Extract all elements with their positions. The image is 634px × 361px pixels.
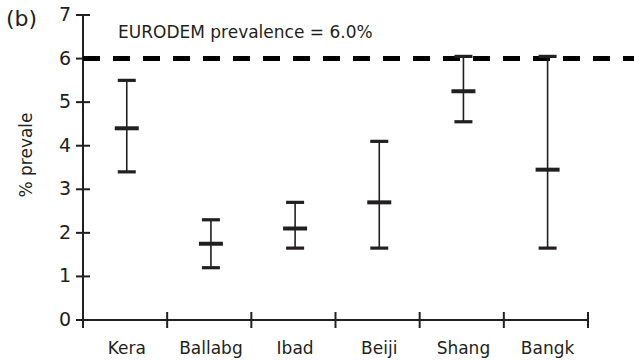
x-tick-label-ballabg: Ballabg (179, 340, 243, 357)
x-tick-label-shang: Shang (437, 340, 491, 357)
y-tick-label: 2 (47, 223, 71, 242)
x-tick-label-kera: Kera (108, 340, 146, 357)
chart-figure: (b) % prevale EURODEM prevalence = 6.0% … (0, 0, 634, 361)
error-bar-ibad (283, 202, 307, 248)
x-tick-label-beiji: Beiji (361, 340, 397, 357)
y-tick-label: 4 (47, 136, 71, 155)
axes-group (76, 15, 588, 328)
data-marks-group (115, 56, 560, 267)
y-tick-label: 7 (47, 5, 71, 24)
y-tick-label: 0 (47, 310, 71, 329)
error-bar-kera (115, 80, 139, 172)
x-tick-label-bangk: Bangk (521, 340, 575, 357)
y-tick-label: 6 (47, 49, 71, 68)
error-bar-ballabg (199, 220, 223, 268)
error-bar-bangk (536, 56, 560, 248)
y-tick-label: 5 (47, 92, 71, 111)
error-bar-shang (451, 56, 475, 121)
plot-area (0, 0, 634, 361)
error-bar-beiji (367, 141, 391, 248)
x-tick-label-ibad: Ibad (277, 340, 314, 357)
y-tick-label: 3 (47, 179, 71, 198)
y-tick-label: 1 (47, 266, 71, 285)
